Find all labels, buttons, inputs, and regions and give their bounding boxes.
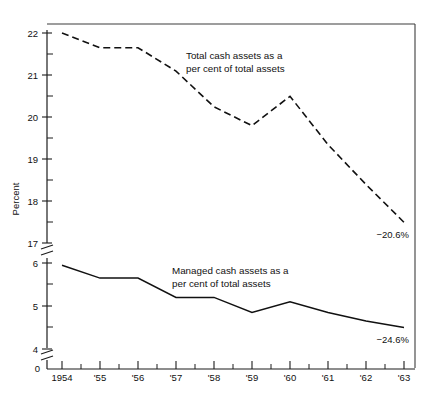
series-total-cash-assets: [62, 33, 404, 222]
y-tick-label-6: 6: [33, 258, 38, 269]
x-tick-label-1959: '59: [246, 372, 258, 383]
x-tick-label-1960: '60: [284, 372, 296, 383]
y-tick-label-18: 18: [27, 196, 38, 207]
total-cash-annotation-line2: per cent of total assets: [186, 63, 285, 74]
total-cash-end-label: −20.6%: [377, 229, 410, 240]
axis-break-upper: [41, 245, 53, 255]
y-tick-label-20: 20: [27, 112, 38, 123]
y-tick-label-0: 0: [35, 363, 40, 374]
x-tick-label-1963: '63: [398, 372, 410, 383]
line-chart: 22 21 20 19 18 17 6 5 4 0 Percent: [0, 0, 442, 399]
y-minor-ticks-upper: [47, 54, 53, 222]
x-minor-ticks: [81, 364, 385, 369]
x-tick-label-1957: '57: [170, 372, 182, 383]
plot-frame: [47, 24, 415, 368]
x-tick-label-1962: '62: [360, 372, 372, 383]
x-tick-label-1955: '55: [94, 372, 106, 383]
managed-cash-annotation-line1: Managed cash assets as a: [172, 265, 289, 276]
y-tick-label-4: 4: [33, 344, 38, 355]
x-tick-label-1954: 1954: [51, 372, 72, 383]
total-cash-annotation-line1: Total cash assets as a: [186, 50, 283, 61]
managed-cash-end-label: −24.6%: [377, 334, 410, 345]
x-tick-label-1956: '56: [132, 372, 144, 383]
y-tick-label-22: 22: [27, 28, 38, 39]
x-tick-label-1961: '61: [322, 372, 334, 383]
y-tick-label-21: 21: [27, 70, 38, 81]
y-tick-label-5: 5: [33, 301, 38, 312]
x-tick-labels: 1954 '55 '56 '57 '58 '59 '60 '61 '62 '63: [51, 372, 410, 383]
y-tick-labels-lower: 6 5 4 0: [33, 258, 40, 375]
y-tick-label-17: 17: [27, 238, 38, 249]
y-axis-title: Percent: [10, 182, 21, 215]
managed-cash-annotation-line2: per cent of total assets: [172, 278, 271, 289]
y-tick-labels-upper: 22 21 20 19 18 17: [27, 28, 38, 249]
managed-cash-annotation: Managed cash assets as a per cent of tot…: [172, 265, 289, 289]
y-tick-label-19: 19: [27, 154, 38, 165]
x-tick-label-1958: '58: [208, 372, 220, 383]
total-cash-annotation: Total cash assets as a per cent of total…: [186, 50, 285, 74]
axis-break-lower: [41, 350, 53, 360]
chart-figure: 22 21 20 19 18 17 6 5 4 0 Percent: [0, 0, 442, 399]
